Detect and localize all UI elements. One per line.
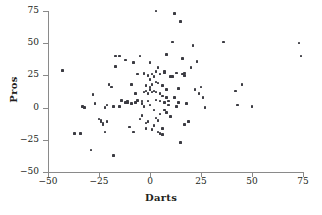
data-point — [163, 101, 166, 104]
data-point — [149, 104, 152, 107]
data-point — [167, 100, 170, 103]
y-axis-title: Pros — [8, 60, 19, 120]
data-point — [94, 102, 97, 105]
data-point — [143, 73, 146, 76]
data-point — [106, 120, 109, 123]
data-point — [222, 41, 225, 44]
data-point — [79, 132, 82, 135]
data-point — [175, 72, 178, 75]
data-point — [92, 93, 95, 96]
data-point — [132, 61, 135, 64]
data-point — [118, 105, 121, 108]
data-point — [124, 59, 127, 62]
data-point — [147, 100, 150, 103]
data-point — [159, 100, 162, 103]
data-point — [153, 75, 156, 78]
data-point — [149, 78, 152, 81]
data-point — [143, 105, 146, 108]
data-point — [185, 102, 188, 105]
data-point — [157, 82, 160, 85]
data-point — [192, 44, 195, 47]
data-point — [298, 42, 301, 45]
data-point — [118, 55, 121, 58]
data-point — [155, 70, 158, 73]
data-point — [177, 101, 180, 104]
data-point — [183, 72, 186, 75]
data-point — [130, 83, 133, 86]
data-point — [163, 72, 166, 75]
data-point — [145, 127, 148, 130]
data-point — [202, 96, 205, 99]
data-point — [139, 118, 142, 121]
data-point — [196, 60, 199, 63]
data-point — [104, 131, 107, 134]
data-point — [153, 109, 156, 112]
data-point — [73, 132, 76, 135]
data-point — [141, 114, 144, 117]
data-point — [155, 91, 158, 94]
data-point — [165, 88, 168, 91]
data-point — [61, 69, 64, 72]
data-point — [181, 57, 184, 60]
data-point — [130, 102, 133, 105]
data-point — [157, 66, 160, 69]
x-axis-title: Darts — [0, 192, 322, 203]
data-point — [147, 120, 150, 123]
data-point — [155, 10, 158, 13]
data-point — [171, 41, 174, 44]
data-point — [157, 119, 160, 122]
data-point — [179, 20, 182, 23]
data-point — [149, 61, 152, 64]
data-point — [198, 92, 201, 95]
data-point — [161, 127, 164, 130]
data-point — [102, 123, 105, 126]
data-point — [241, 83, 244, 86]
data-point — [155, 99, 158, 102]
data-point — [171, 75, 174, 78]
data-point — [159, 73, 162, 76]
scatter-plot-figure: −50−250255075 −50−250255075 Darts Pros — [0, 0, 322, 215]
data-point — [120, 99, 123, 102]
data-point — [110, 86, 113, 89]
data-point — [183, 74, 186, 77]
data-point — [132, 131, 135, 134]
data-point — [169, 115, 172, 118]
data-point — [183, 123, 186, 126]
data-point — [104, 106, 107, 109]
data-point — [147, 74, 150, 77]
data-point — [151, 83, 154, 86]
data-point — [190, 66, 193, 69]
data-point — [165, 53, 168, 56]
data-point — [136, 73, 139, 76]
data-point — [173, 96, 176, 99]
data-point — [112, 154, 115, 157]
data-point — [128, 126, 131, 129]
data-point — [112, 105, 115, 108]
data-point — [153, 124, 156, 127]
data-point — [161, 133, 164, 136]
data-point — [161, 95, 164, 98]
data-point — [200, 86, 203, 89]
data-point — [136, 99, 139, 102]
data-point — [159, 113, 162, 116]
data-points-layer — [0, 0, 322, 215]
data-point — [161, 84, 164, 87]
data-point — [165, 96, 168, 99]
data-point — [83, 106, 86, 109]
data-point — [134, 92, 137, 95]
data-point — [194, 88, 197, 91]
data-point — [145, 84, 148, 87]
data-point — [177, 87, 180, 90]
data-point — [187, 120, 190, 123]
data-point — [236, 104, 239, 107]
data-point — [300, 55, 303, 58]
data-point — [204, 106, 207, 109]
data-point — [234, 90, 237, 93]
data-point — [147, 92, 150, 95]
data-point — [173, 12, 176, 15]
data-point — [114, 65, 117, 68]
data-point — [106, 104, 109, 107]
data-point — [167, 104, 170, 107]
data-point — [179, 141, 182, 144]
data-point — [175, 105, 178, 108]
